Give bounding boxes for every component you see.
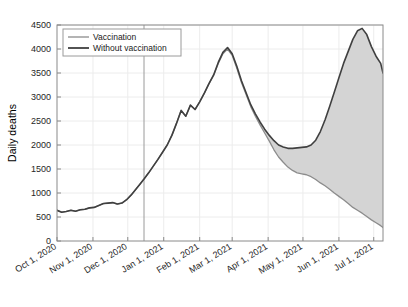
legend-label: Vaccination bbox=[93, 32, 137, 42]
legend-label: Without vaccination bbox=[93, 43, 167, 53]
y-tick-label: 3000 bbox=[31, 92, 51, 102]
y-tick-label: 4000 bbox=[31, 44, 51, 54]
y-axis-label: Daily deaths bbox=[6, 104, 18, 162]
y-tick-label: 1500 bbox=[31, 164, 51, 174]
y-tick-label: 2000 bbox=[31, 140, 51, 150]
chart-canvas: 050010001500200025003000350040004500 Oct… bbox=[0, 0, 408, 307]
y-tick-label: 2500 bbox=[31, 116, 51, 126]
figure-container: 050010001500200025003000350040004500 Oct… bbox=[0, 0, 408, 307]
y-tick-label: 4500 bbox=[31, 20, 51, 30]
y-tick-label: 3500 bbox=[31, 68, 51, 78]
y-tick-label: 1000 bbox=[31, 188, 51, 198]
y-tick-label: 500 bbox=[36, 212, 51, 222]
legend: VaccinationWithout vaccination bbox=[63, 29, 181, 56]
